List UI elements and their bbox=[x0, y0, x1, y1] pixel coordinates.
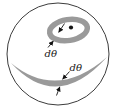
band-dtheta-label: dθ bbox=[70, 62, 82, 73]
figure-canvas: dθ dθ bbox=[0, 0, 114, 108]
sphere-dtheta-figure: dθ dθ bbox=[0, 0, 114, 108]
pole-dot bbox=[69, 25, 73, 29]
sphere-outline bbox=[7, 3, 109, 105]
small-ring-dtheta-label: dθ bbox=[45, 48, 57, 59]
